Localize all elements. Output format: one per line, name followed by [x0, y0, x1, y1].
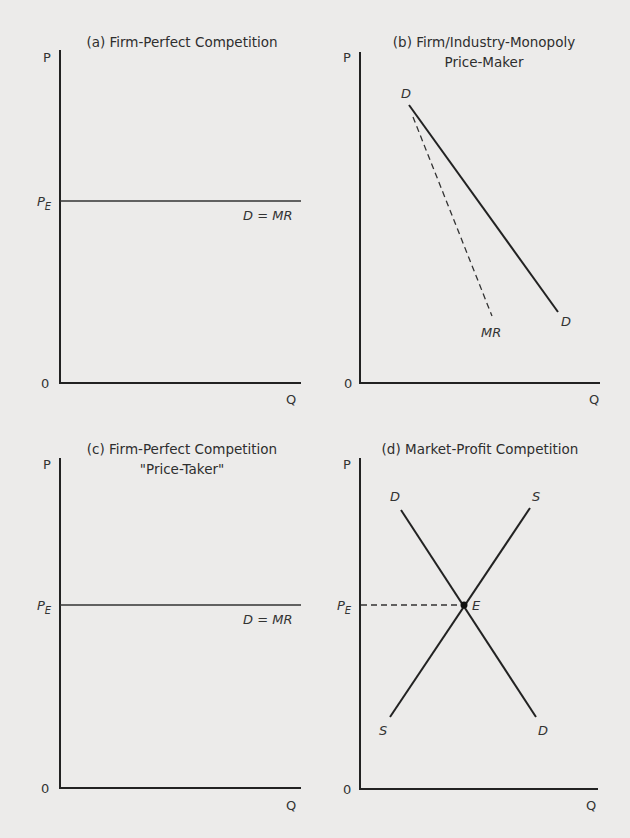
- panel-b-origin: 0: [344, 376, 352, 391]
- panel-b-y-label: P: [343, 50, 351, 65]
- panel-d-demand-bottom-label: D: [538, 723, 548, 738]
- panel-d-equilibrium-point: [461, 602, 468, 609]
- panel-d-supply-bottom-label: S: [379, 723, 387, 738]
- panel-a-demand-mr-label: D = MR: [243, 208, 292, 223]
- panel-a: (a) Firm-Perfect Competition P Q 0 PE D …: [37, 34, 301, 407]
- panel-d-demand-curve: [401, 510, 536, 717]
- panel-d-origin: 0: [343, 782, 351, 797]
- diagram-canvas: (a) Firm-Perfect Competition P Q 0 PE D …: [0, 0, 630, 838]
- panel-d-pe-label: PE: [337, 598, 352, 616]
- panel-b: (b) Firm/Industry-Monopoly Price-Maker P…: [343, 34, 600, 407]
- panel-d-equilibrium-label: E: [472, 598, 481, 613]
- panel-c-pe-label: PE: [37, 598, 52, 616]
- panel-a-y-label: P: [43, 50, 51, 65]
- panel-d-x-label: Q: [586, 798, 596, 813]
- panel-a-origin: 0: [41, 376, 49, 391]
- panel-d: (d) Market-Profit Competition P Q 0 E PE…: [337, 441, 598, 813]
- panel-c-origin: 0: [41, 781, 49, 796]
- panel-b-mr-label: MR: [481, 325, 501, 340]
- panel-d-title: (d) Market-Profit Competition: [382, 441, 579, 457]
- panel-b-title-line1: (b) Firm/Industry-Monopoly: [393, 34, 575, 50]
- panel-a-x-label: Q: [286, 392, 296, 407]
- panel-b-demand-top-label: D: [401, 86, 411, 101]
- panel-a-pe-label: PE: [37, 194, 52, 212]
- panel-c-title-line2: "Price-Taker": [140, 461, 224, 477]
- panel-b-x-label: Q: [589, 392, 599, 407]
- panel-b-demand-bottom-label: D: [561, 314, 571, 329]
- panel-d-y-label: P: [343, 457, 351, 472]
- panel-c-demand-mr-label: D = MR: [243, 612, 292, 627]
- panel-b-mr-curve: [413, 117, 492, 316]
- panel-b-demand-curve: [409, 105, 558, 312]
- panel-b-title-line2: Price-Maker: [445, 54, 524, 70]
- market-structures-diagram: (a) Firm-Perfect Competition P Q 0 PE D …: [0, 0, 630, 838]
- panel-d-demand-top-label: D: [390, 489, 400, 504]
- panel-c-title-line1: (c) Firm-Perfect Competition: [87, 441, 277, 457]
- panel-c: (c) Firm-Perfect Competition "Price-Take…: [37, 441, 301, 813]
- panel-c-x-label: Q: [286, 798, 296, 813]
- panel-a-title: (a) Firm-Perfect Competition: [86, 34, 277, 50]
- panel-c-y-label: P: [43, 457, 51, 472]
- panel-d-supply-top-label: S: [532, 489, 540, 504]
- panel-d-supply-curve: [390, 508, 530, 717]
